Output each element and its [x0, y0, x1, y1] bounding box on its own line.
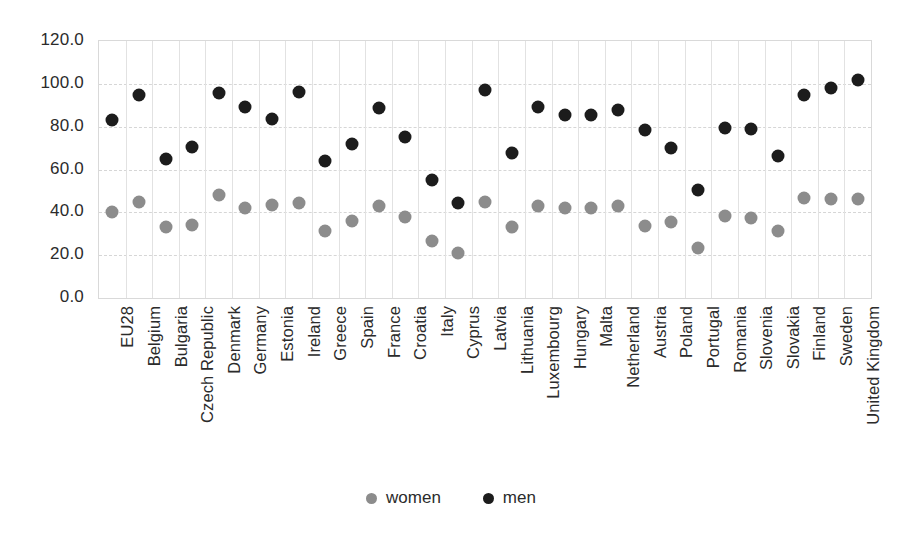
data-point-women	[266, 198, 279, 211]
data-point-women	[452, 247, 465, 260]
legend-label: women	[386, 488, 441, 508]
data-point-men	[212, 87, 225, 100]
data-point-women	[159, 221, 172, 234]
gridline-vertical	[445, 41, 446, 298]
gridline-vertical	[126, 41, 127, 298]
gridline-vertical	[339, 41, 340, 298]
data-point-women	[771, 224, 784, 237]
data-point-women	[532, 199, 545, 212]
x-tick-label: Ireland	[305, 306, 324, 357]
data-point-men	[425, 174, 438, 187]
data-point-men	[479, 84, 492, 97]
x-tick-label: Poland	[677, 306, 696, 358]
y-tick-label: 100.0	[40, 73, 84, 93]
x-tick-label: Bulgaria	[172, 306, 191, 367]
gridline-vertical	[312, 41, 313, 298]
data-point-men	[239, 101, 252, 114]
data-point-men	[266, 113, 279, 126]
data-point-men	[851, 73, 864, 86]
gridline-vertical	[605, 41, 606, 298]
data-point-men	[505, 147, 518, 160]
data-point-women	[612, 199, 625, 212]
data-point-men	[825, 82, 838, 95]
data-point-men	[771, 149, 784, 162]
data-point-women	[212, 189, 225, 202]
x-tick-label: Belgium	[145, 306, 164, 366]
plot-area	[98, 40, 872, 299]
gridline-vertical	[232, 41, 233, 298]
gridline-vertical	[418, 41, 419, 298]
data-point-women	[319, 224, 332, 237]
gridline-vertical	[765, 41, 766, 298]
y-tick-label: 20.0	[50, 244, 84, 264]
data-point-women	[239, 202, 252, 215]
legend-swatch-men	[483, 493, 494, 504]
data-point-women	[745, 211, 758, 224]
data-point-men	[718, 121, 731, 134]
gridline-vertical	[631, 41, 632, 298]
data-point-men	[106, 114, 119, 127]
data-point-men	[159, 152, 172, 165]
data-point-women	[718, 209, 731, 222]
data-point-women	[798, 192, 811, 205]
gridline-vertical	[205, 41, 206, 298]
legend-entry-women[interactable]: women	[366, 488, 441, 508]
data-point-women	[292, 196, 305, 209]
x-tick-label: France	[385, 306, 404, 358]
x-tick-label: Czech Republic	[198, 306, 217, 423]
gridline-vertical	[685, 41, 686, 298]
x-tick-label: Slovakia	[784, 306, 803, 369]
x-tick-label: Cyprus	[464, 306, 483, 359]
gridline-vertical	[791, 41, 792, 298]
x-tick-label: Slovenia	[757, 306, 776, 370]
data-point-men	[186, 141, 199, 154]
x-tick-label: Austria	[651, 306, 670, 358]
legend-entry-men[interactable]: men	[483, 488, 536, 508]
data-point-women	[585, 202, 598, 215]
data-point-men	[691, 183, 704, 196]
x-tick-label: Portugal	[704, 306, 723, 368]
gridline-vertical	[711, 41, 712, 298]
scatter-chart: 0.020.040.060.080.0100.0120.0 EU28Belgiu…	[0, 0, 902, 539]
data-point-women	[186, 219, 199, 232]
y-tick-label: 80.0	[50, 116, 84, 136]
data-point-women	[558, 202, 571, 215]
data-point-men	[665, 142, 678, 155]
gridline-vertical	[179, 41, 180, 298]
data-point-men	[612, 103, 625, 116]
x-tick-label: Sweden	[837, 306, 856, 366]
gridline-vertical	[365, 41, 366, 298]
gridline-vertical	[818, 41, 819, 298]
x-axis: EU28BelgiumBulgariaCzech RepublicDenmark…	[98, 298, 870, 498]
gridline-vertical	[285, 41, 286, 298]
x-tick-label: Lithuania	[518, 306, 537, 374]
y-tick-label: 40.0	[50, 201, 84, 221]
data-point-women	[399, 210, 412, 223]
x-tick-label: EU28	[118, 306, 137, 348]
data-point-men	[452, 196, 465, 209]
gridline-vertical	[578, 41, 579, 298]
x-tick-label: Spain	[358, 306, 377, 349]
data-point-women	[372, 199, 385, 212]
gridline-vertical	[552, 41, 553, 298]
data-point-men	[132, 88, 145, 101]
data-point-men	[585, 108, 598, 121]
y-tick-label: 60.0	[50, 159, 84, 179]
x-tick-label: United Kingdom	[864, 306, 883, 425]
x-tick-label: Croatia	[411, 306, 430, 360]
gridline-vertical	[259, 41, 260, 298]
x-tick-label: Latvia	[491, 306, 510, 351]
data-point-men	[638, 123, 651, 136]
data-point-men	[319, 154, 332, 167]
gridline-vertical	[152, 41, 153, 298]
gridline-vertical	[525, 41, 526, 298]
x-tick-label: Finland	[810, 306, 829, 361]
data-point-women	[825, 193, 838, 206]
data-point-men	[399, 131, 412, 144]
gridline-vertical	[658, 41, 659, 298]
data-point-women	[638, 220, 651, 233]
y-tick-label: 120.0	[40, 30, 84, 50]
gridline-vertical	[472, 41, 473, 298]
x-tick-label: Romania	[731, 306, 750, 373]
data-point-men	[292, 86, 305, 99]
